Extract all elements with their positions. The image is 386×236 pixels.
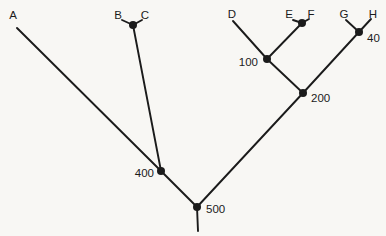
tree-edge-edge-A-400 <box>17 28 161 171</box>
tree-edge-edge-400-500 <box>161 171 197 207</box>
tree-edge-edge-100-200 <box>267 59 303 93</box>
taxon-label-D: D <box>228 8 236 20</box>
node-100-dot <box>263 55 271 63</box>
tree-nodes-group <box>129 19 363 211</box>
node-400-dot <box>157 167 165 175</box>
taxon-label-F: F <box>307 8 314 20</box>
taxon-label-G: G <box>340 8 349 20</box>
tree-edge-edge-ef-100 <box>267 23 302 59</box>
tree-edge-edge-D-100 <box>233 21 267 59</box>
node-bc-dot <box>129 21 137 29</box>
node-500-label: 500 <box>206 203 225 215</box>
node-200-label: 200 <box>311 92 330 104</box>
taxon-label-A: A <box>9 9 17 21</box>
node-400-label: 400 <box>135 167 154 179</box>
node-500-dot <box>193 203 201 211</box>
tree-edges-group <box>17 19 371 231</box>
taxon-label-E: E <box>285 8 293 20</box>
tree-edge-edge-bc-400 <box>133 25 161 171</box>
node-100-label: 100 <box>239 56 258 68</box>
taxon-label-C: C <box>141 9 149 21</box>
node-ef-dot <box>298 19 306 27</box>
cladogram-figure: 40100200400500ABCDEFGH <box>0 0 386 236</box>
taxon-label-B: B <box>114 9 122 21</box>
node-40-dot <box>355 28 363 36</box>
node-40-label: 40 <box>367 32 380 44</box>
taxon-label-H: H <box>369 8 377 20</box>
tree-edge-edge-40-200 <box>303 32 359 93</box>
tree-edge-edge-200-500 <box>197 93 303 207</box>
cladogram-svg: 40100200400500ABCDEFGH <box>0 0 386 236</box>
node-200-dot <box>299 89 307 97</box>
tree-labels-group: 40100200400500ABCDEFGH <box>9 8 380 215</box>
